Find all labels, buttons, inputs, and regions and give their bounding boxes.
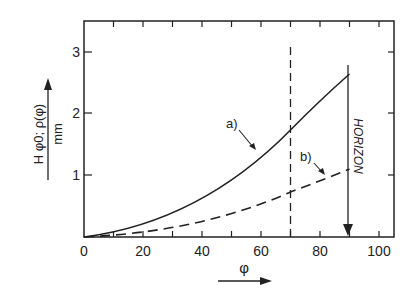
horizon-label: HORIZON [351,118,365,174]
horizon-arrowhead-icon [343,224,353,236]
svg-text:3: 3 [72,44,80,60]
x-ticks [114,21,380,237]
svg-text:100: 100 [367,243,391,259]
curve-b-label: b) [300,149,312,164]
y-axis-unit: mm [50,123,65,145]
curve-a-label: a) [226,116,238,131]
curve-b [84,169,350,237]
x-tick-labels: 02040 6080100 [80,243,391,259]
y-tick-labels: 321 [72,44,80,183]
svg-text:60: 60 [253,243,269,259]
svg-text:80: 80 [312,243,328,259]
x-axis-arrowhead-icon [260,277,272,285]
svg-text:2: 2 [72,105,80,121]
svg-text:40: 40 [194,243,210,259]
curve-a-pointer [239,130,253,147]
y-axis-arrowhead-icon [44,78,52,90]
svg-text:20: 20 [135,243,151,259]
chart: 02040 6080100 321 HORIZON a) b) H φ0; ρ(… [0,0,408,299]
x-axis-label: φ [239,259,249,276]
y-axis-label: H φ0; ρ(φ) [31,104,46,164]
svg-text:0: 0 [80,243,88,259]
svg-text:1: 1 [72,167,80,183]
